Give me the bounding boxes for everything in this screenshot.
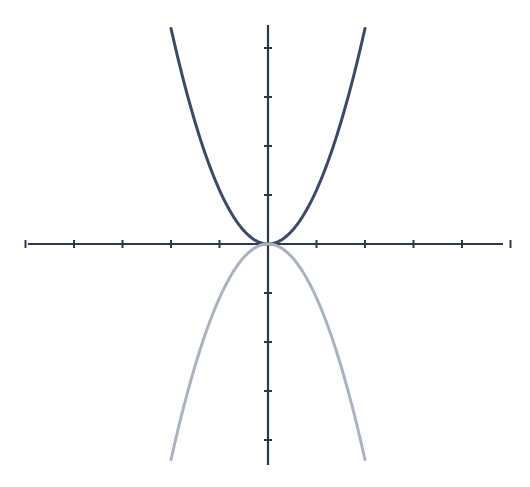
- parabola-chart: [0, 0, 530, 487]
